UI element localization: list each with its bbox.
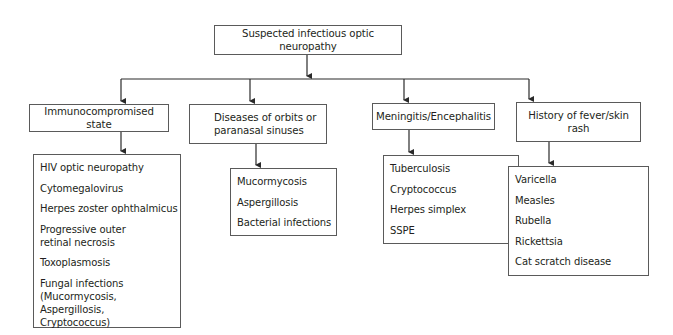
list-immunocompromised: HIV optic neuropathy Cytomegalovirus Her…: [33, 154, 181, 328]
list-meningitis: Tuberculosis Cryptococcus Herpes simplex…: [383, 155, 519, 244]
root-label: Suspected infectious optic neuropathy: [221, 27, 395, 53]
list-item: Tuberculosis: [390, 162, 518, 175]
category-label: Meningitis/Encephalitis: [376, 110, 491, 123]
list-item: Herpes simplex: [390, 203, 518, 216]
root-node: Suspected infectious optic neuropathy: [214, 25, 402, 55]
category-label: Immunocompromised state: [36, 105, 162, 131]
category-immunocompromised: Immunocompromised state: [29, 104, 169, 132]
category-label: History of fever/skin rash: [523, 109, 634, 135]
list-item: HIV optic neuropathy: [40, 161, 180, 174]
list-item: Toxoplasmosis: [40, 256, 180, 269]
list-item: Varicella: [515, 173, 648, 186]
list-item: Cryptococcus: [390, 183, 518, 196]
list-item: SSPE: [390, 224, 518, 237]
list-orbits-sinuses: Mucormycosis Aspergillosis Bacterial inf…: [230, 168, 337, 236]
list-item: Rickettsia: [515, 235, 648, 248]
list-item: Cytomegalovirus: [40, 182, 180, 195]
category-meningitis: Meningitis/Encephalitis: [372, 103, 495, 130]
list-item: Aspergillosis: [237, 196, 336, 209]
category-label: Diseases of orbits or paranasal sinuses: [214, 111, 320, 137]
list-item: Cat scratch disease: [515, 255, 648, 268]
list-item: Rubella: [515, 214, 648, 227]
list-item: Mucormycosis: [237, 175, 336, 188]
list-item: Bacterial infections: [237, 216, 336, 229]
category-fever-rash: History of fever/skin rash: [516, 102, 641, 142]
category-orbits-sinuses: Diseases of orbits or paranasal sinuses: [189, 104, 327, 144]
list-item: Measles: [515, 194, 648, 207]
list-item: Fungal infections (Mucormycosis, Aspergi…: [40, 277, 175, 329]
list-item: Herpes zoster ophthalmicus: [40, 202, 180, 215]
list-fever-rash: Varicella Measles Rubella Rickettsia Cat…: [508, 166, 649, 276]
list-item: Progressive outer retinal necrosis: [40, 223, 158, 249]
